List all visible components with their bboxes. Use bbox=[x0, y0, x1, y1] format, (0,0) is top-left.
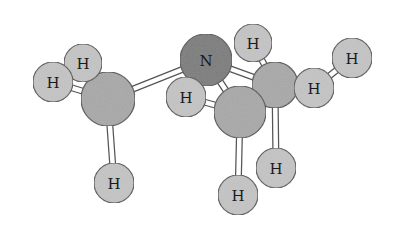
atom-h5: H bbox=[294, 68, 334, 108]
atom-label: H bbox=[345, 50, 358, 68]
atom-h7: H bbox=[256, 148, 296, 188]
atom-label: H bbox=[307, 80, 320, 98]
atom-h8: H bbox=[218, 175, 258, 215]
atom-label: H bbox=[76, 55, 89, 73]
atom-label: N bbox=[199, 52, 212, 70]
atom-label: H bbox=[46, 74, 59, 92]
atoms-layer: HHHNHHHHHH bbox=[33, 24, 372, 215]
atom-label: H bbox=[107, 175, 120, 193]
molecule-diagram: HHHNHHHHHH bbox=[0, 0, 399, 234]
atom-h3: H bbox=[94, 163, 134, 203]
atom-label: H bbox=[269, 160, 282, 178]
atom-h6: H bbox=[332, 38, 372, 78]
atom-c2 bbox=[214, 86, 266, 138]
atom-label: H bbox=[246, 35, 259, 53]
atom-h2: H bbox=[33, 62, 73, 102]
atom-label: H bbox=[179, 89, 192, 107]
atom-h4: H bbox=[234, 24, 272, 62]
atom-hn: H bbox=[166, 77, 206, 117]
atom-label: H bbox=[231, 187, 244, 205]
carbon-atom-circle bbox=[214, 86, 266, 138]
